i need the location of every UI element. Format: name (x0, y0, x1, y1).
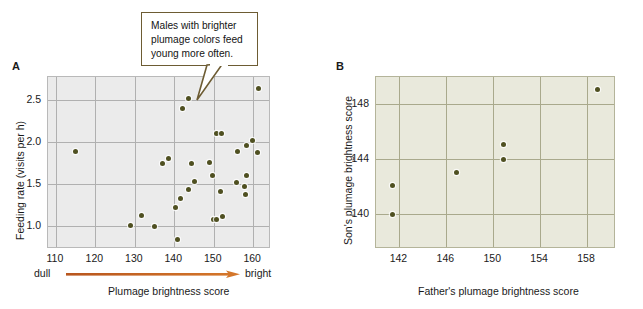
scatter-point (173, 205, 178, 210)
scatter-point (501, 157, 506, 162)
x-tick-label: 142 (390, 252, 408, 264)
scatter-point (214, 217, 219, 222)
x-tick-label: 120 (86, 252, 104, 264)
gridline-vertical (446, 77, 447, 247)
gridline-horizontal (48, 100, 269, 101)
panel-b-plot-area (375, 76, 615, 248)
scatter-point (186, 187, 191, 192)
panel-a-letter: A (12, 60, 20, 72)
scatter-point (189, 161, 194, 166)
gridline-vertical (587, 77, 588, 247)
y-tick-label: 148 (343, 97, 369, 109)
scatter-point (235, 149, 240, 154)
scatter-point (255, 150, 260, 155)
brightness-direction-arrow (66, 270, 240, 279)
scatter-point (166, 156, 171, 161)
x-tick-label: 158 (577, 252, 595, 264)
x-tick-label: 150 (483, 252, 501, 264)
panel-b-letter: B (336, 60, 344, 72)
scatter-point (501, 142, 506, 147)
y-tick-label: 1.5 (15, 177, 41, 189)
scatter-point (175, 237, 180, 242)
panel-b-x-axis-title: Father's plumage brightness score (418, 285, 579, 297)
x-tick-label: 140 (165, 252, 183, 264)
panel-a-callout-tail (190, 64, 230, 102)
scatter-point (244, 143, 249, 148)
scatter-point (243, 192, 248, 197)
gridline-horizontal (48, 142, 269, 143)
gridline-vertical (95, 77, 96, 247)
x-tick-label: 110 (47, 252, 64, 264)
scatter-point (207, 160, 212, 165)
gridline-vertical (493, 77, 494, 247)
panel-a-x-high-label: bright (245, 267, 271, 279)
scatter-point (220, 214, 225, 219)
scatter-point (73, 149, 78, 154)
x-tick-label: 150 (204, 252, 222, 264)
scatter-point (192, 179, 197, 184)
y-tick-label: 2.5 (15, 93, 41, 105)
scatter-point (242, 184, 247, 189)
panel-b: B Son's plumage brightness score Father'… (322, 0, 643, 309)
gridline-vertical (399, 77, 400, 247)
y-tick-label: 140 (343, 207, 369, 219)
scatter-point (595, 87, 600, 92)
gridline-vertical (540, 77, 541, 247)
scatter-point (256, 86, 261, 91)
y-tick-label: 2.0 (15, 135, 41, 147)
figure-container: A Feeding rate (visits per h) Plumage br… (0, 0, 643, 309)
panel-a: A Feeding rate (visits per h) Plumage br… (0, 0, 322, 309)
gridline-vertical (174, 77, 175, 247)
scatter-point (244, 173, 249, 178)
scatter-point (454, 170, 459, 175)
gridline-horizontal (376, 104, 614, 105)
panel-a-x-low-label: dull (34, 267, 50, 279)
scatter-point (390, 183, 395, 188)
gridline-horizontal (48, 226, 269, 227)
scatter-point (218, 189, 223, 194)
scatter-point (178, 196, 183, 201)
scatter-point (139, 213, 144, 218)
panel-a-plot-area (47, 76, 270, 248)
x-tick-label: 154 (530, 252, 548, 264)
gridline-horizontal (376, 214, 614, 215)
scatter-point (390, 212, 395, 217)
gridline-vertical (253, 77, 254, 247)
panel-a-callout: Males with brighter plumage colors feed … (141, 12, 258, 66)
gridline-vertical (56, 77, 57, 247)
panel-b-y-axis-title: Son's plumage brightness score (342, 96, 354, 245)
panel-a-x-axis-title: Plumage brightness score (108, 285, 229, 297)
scatter-point (128, 223, 133, 228)
y-tick-label: 144 (343, 152, 369, 164)
scatter-point (180, 106, 185, 111)
scatter-point (160, 161, 165, 166)
gridline-vertical (135, 77, 136, 247)
y-tick-label: 1.0 (15, 219, 41, 231)
scatter-point (219, 131, 224, 136)
gridline-horizontal (376, 159, 614, 160)
x-tick-label: 130 (125, 252, 143, 264)
scatter-point (152, 224, 157, 229)
x-tick-label: 146 (437, 252, 455, 264)
x-tick-label: 160 (243, 252, 261, 264)
